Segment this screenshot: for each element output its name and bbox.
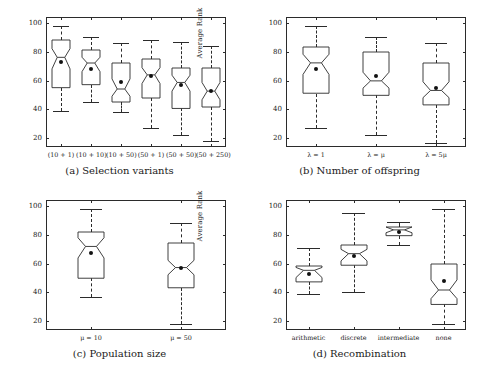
whisker-cap-upper	[173, 42, 188, 43]
mean-marker	[119, 80, 123, 84]
whisker-cap-upper	[432, 209, 454, 210]
panel-d: Average Rank20406080100arithmeticdiscret…	[240, 183, 479, 366]
x-tick	[354, 327, 355, 330]
y-tick	[46, 264, 49, 265]
x-tick-label: (10 + 50)	[106, 151, 136, 159]
x-tick-label: none	[421, 334, 466, 342]
panel-caption-c: (c) Population size	[0, 348, 239, 360]
x-tick	[316, 144, 317, 147]
x-tick	[61, 144, 62, 147]
y-tick-right	[223, 23, 226, 24]
y-tick-right	[223, 292, 226, 293]
y-tick-right	[463, 321, 466, 322]
whisker-cap-lower	[342, 292, 364, 293]
x-tick-label: λ = 1	[286, 151, 346, 159]
y-tick-label: 60	[260, 77, 282, 85]
whisker-lower	[151, 98, 152, 128]
y-tick	[46, 23, 49, 24]
mean-marker	[59, 60, 63, 64]
whisker-cap-lower	[83, 102, 98, 103]
whisker-cap-upper	[342, 213, 364, 214]
x-tick-top	[316, 17, 317, 20]
whisker-cap-lower	[173, 135, 188, 136]
whisker-cap-lower	[365, 135, 387, 136]
x-tick-top	[181, 17, 182, 20]
x-tick-label: (50 + 250)	[196, 151, 226, 159]
y-tick-label: 40	[260, 105, 282, 113]
whisker-cap-lower	[170, 324, 192, 325]
y-tick	[286, 292, 289, 293]
y-tick	[46, 109, 49, 110]
whisker-cap-upper	[305, 26, 327, 27]
y-tick-right	[463, 264, 466, 265]
whisker-cap-lower	[432, 324, 454, 325]
y-tick-label: 60	[20, 260, 42, 268]
y-tick-right	[463, 23, 466, 24]
x-tick	[376, 144, 377, 147]
y-tick-right	[223, 138, 226, 139]
x-tick-top	[61, 17, 62, 20]
y-tick-label: 80	[260, 231, 282, 239]
whisker-cap-upper	[53, 26, 68, 27]
box-body	[420, 60, 452, 108]
y-tick	[46, 138, 49, 139]
y-tick	[46, 206, 49, 207]
whisker-cap-lower	[305, 128, 327, 129]
y-tick-right	[223, 235, 226, 236]
x-tick	[121, 144, 122, 147]
whisker-lower	[61, 88, 62, 111]
x-tick-top	[444, 200, 445, 203]
whisker-cap-lower	[297, 294, 319, 295]
x-tick	[399, 327, 400, 330]
y-tick-right	[463, 292, 466, 293]
y-tick-right	[463, 138, 466, 139]
x-tick-label: arithmetic	[286, 334, 331, 342]
whisker-cap-lower	[53, 111, 68, 112]
mean-marker	[442, 279, 446, 283]
y-tick	[286, 52, 289, 53]
x-tick-top	[436, 17, 437, 20]
y-axis-label: Average Rank	[194, 0, 206, 88]
whisker-cap-upper	[83, 37, 98, 38]
x-tick	[181, 327, 182, 330]
whisker-lower	[181, 108, 182, 135]
mean-marker	[179, 266, 183, 270]
x-tick-top	[309, 200, 310, 203]
y-tick-label: 60	[20, 77, 42, 85]
whisker-cap-lower	[425, 143, 447, 144]
whisker-cap-lower	[80, 297, 102, 298]
y-tick	[286, 109, 289, 110]
box-body	[428, 261, 460, 307]
x-tick-label: μ = 50	[136, 334, 226, 342]
panel-b: Average Rank20406080100λ = 1λ = μλ = 5μ(…	[240, 0, 479, 183]
y-tick	[286, 23, 289, 24]
y-tick	[286, 321, 289, 322]
whisker-cap-lower	[203, 141, 218, 142]
whisker-cap-upper	[143, 40, 158, 41]
x-tick	[181, 144, 182, 147]
figure-boxplot-grid: Average Rank20406080100(10 + 1)(10 + 10)…	[0, 0, 479, 367]
whisker-lower	[211, 107, 212, 142]
mean-marker	[209, 89, 213, 93]
y-tick-right	[223, 109, 226, 110]
y-tick	[286, 235, 289, 236]
whisker-cap-lower	[113, 112, 128, 113]
x-tick-top	[181, 200, 182, 203]
y-tick-label: 40	[20, 288, 42, 296]
y-tick	[286, 138, 289, 139]
y-axis-label: Average Rank	[194, 161, 206, 271]
mean-marker	[352, 254, 356, 258]
whisker-cap-lower	[387, 245, 409, 246]
y-tick	[286, 264, 289, 265]
whisker-upper	[354, 213, 355, 245]
whisker-cap-upper	[170, 223, 192, 224]
x-tick-label: λ = 5μ	[406, 151, 466, 159]
whisker-cap-upper	[365, 37, 387, 38]
whisker-lower	[316, 94, 317, 129]
y-tick-right	[223, 264, 226, 265]
y-tick-label: 20	[20, 317, 42, 325]
mean-marker	[89, 67, 93, 71]
x-tick	[309, 327, 310, 330]
y-tick	[46, 292, 49, 293]
mean-marker	[434, 86, 438, 90]
